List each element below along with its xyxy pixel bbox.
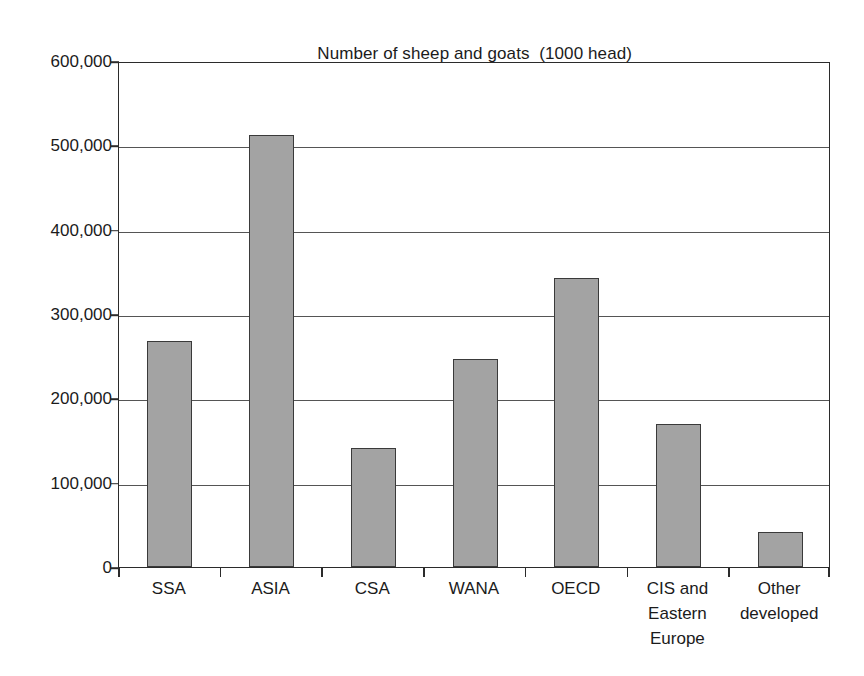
x-axis-label-line: WANA [423,576,525,601]
bar [453,359,498,567]
x-axis-category-label: CSA [321,576,423,601]
bar [758,532,803,567]
x-axis-label-line: Europe [627,626,729,651]
x-axis-label-line: Other [728,576,830,601]
y-axis-tick-marks [0,62,120,568]
x-axis-category-label: CIS andEasternEurope [627,576,729,651]
x-axis-category-label: WANA [423,576,525,601]
gridline [119,316,829,317]
plot-area [118,62,830,568]
x-axis-label-line: CIS and [627,576,729,601]
x-axis-category-labels: SSAASIACSAWANAOECDCIS andEasternEuropeOt… [118,576,830,672]
x-axis-label-line: OECD [525,576,627,601]
x-axis-category-label: ASIA [220,576,322,601]
x-axis-label-line: SSA [118,576,220,601]
bar [147,341,192,567]
x-axis-label-line: CSA [321,576,423,601]
gridline [119,232,829,233]
x-axis-label-line: developed [728,601,830,626]
bar [351,448,396,567]
chart-title-text: Number of sheep and goats (1000 head) [317,44,632,64]
bar [249,135,294,567]
bar [554,278,599,567]
x-axis-label-line: ASIA [220,576,322,601]
x-axis-category-label: SSA [118,576,220,601]
x-axis-category-label: OECD [525,576,627,601]
bar-chart-figure: Number of sheep and goats (1000 head) 60… [0,0,864,676]
x-axis-label-line: Eastern [627,601,729,626]
x-axis-category-label: Otherdeveloped [728,576,830,626]
bar [656,424,701,567]
gridline [119,147,829,148]
